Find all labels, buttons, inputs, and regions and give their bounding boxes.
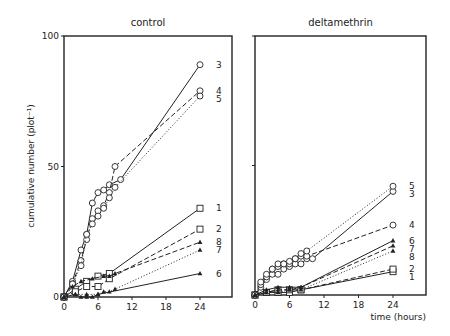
series-end-label: 3: [216, 60, 222, 70]
circle-marker-icon: [197, 62, 203, 68]
series-4: [252, 222, 396, 298]
circle-marker-icon: [269, 266, 275, 272]
y-tick-label: 50: [48, 162, 60, 172]
triangle-marker-icon: [198, 247, 203, 251]
series-end-label: 3: [409, 189, 415, 199]
series-end-label: 6: [216, 269, 222, 279]
series-end-label: 1: [409, 272, 415, 282]
x-axis-label: time (hours): [370, 312, 426, 322]
panel-title: control: [131, 17, 166, 28]
series-end-label: 1: [216, 203, 222, 213]
circle-marker-icon: [106, 195, 112, 201]
x-tick-label: 24: [194, 302, 206, 312]
series-6: [62, 271, 203, 299]
triangle-marker-icon: [391, 248, 396, 252]
x-tick-label: 12: [126, 302, 137, 312]
circle-marker-icon: [78, 263, 84, 269]
y-axis-label: cumulative number (plot⁻¹): [26, 104, 36, 228]
circle-marker-icon: [197, 93, 203, 99]
x-tick-label: 6: [95, 302, 101, 312]
y-tick-label: 0: [53, 292, 59, 302]
series-5: [252, 183, 396, 298]
circle-marker-icon: [281, 261, 287, 267]
square-marker-icon: [95, 284, 101, 290]
series-3: [252, 188, 396, 298]
figure: control0612182405010034512876deltamethri…: [0, 0, 450, 336]
circle-marker-icon: [298, 261, 304, 267]
circle-marker-icon: [390, 183, 396, 189]
square-marker-icon: [197, 205, 203, 211]
circle-marker-icon: [112, 164, 118, 170]
circle-marker-icon: [84, 231, 90, 237]
square-marker-icon: [84, 284, 90, 290]
circle-marker-icon: [89, 221, 95, 227]
panel-title: deltamethrin: [308, 17, 373, 28]
triangle-marker-icon: [198, 271, 203, 275]
circle-marker-icon: [275, 261, 281, 267]
circle-marker-icon: [310, 256, 316, 262]
square-marker-icon: [390, 266, 396, 272]
x-tick-label: 6: [287, 300, 293, 310]
circle-marker-icon: [292, 256, 298, 262]
y-tick-label: 100: [42, 31, 59, 41]
circle-marker-icon: [95, 213, 101, 219]
control-panel: control0612182405010034512876: [42, 17, 232, 312]
triangle-marker-icon: [198, 240, 203, 244]
circle-marker-icon: [112, 184, 118, 190]
x-tick-label: 0: [252, 300, 258, 310]
circle-marker-icon: [304, 248, 310, 254]
series-end-label: 8: [409, 252, 415, 262]
series-5: [61, 93, 203, 300]
x-tick-label: 12: [318, 300, 329, 310]
triangle-marker-icon: [391, 243, 396, 247]
x-tick-label: 24: [387, 300, 399, 310]
square-marker-icon: [197, 226, 203, 232]
circle-marker-icon: [101, 205, 107, 211]
series-end-label: 4: [409, 220, 415, 230]
series-end-label: 5: [216, 94, 222, 104]
circle-marker-icon: [275, 271, 281, 277]
x-tick-label: 18: [160, 302, 172, 312]
circle-marker-icon: [101, 187, 107, 193]
x-tick-label: 18: [353, 300, 365, 310]
x-tick-label: 0: [61, 302, 67, 312]
circle-marker-icon: [89, 200, 95, 206]
circle-marker-icon: [118, 177, 124, 183]
series-end-label: 2: [216, 224, 222, 234]
circle-marker-icon: [298, 251, 304, 257]
circle-marker-icon: [95, 190, 101, 196]
circle-marker-icon: [264, 271, 270, 277]
circle-marker-icon: [287, 258, 293, 264]
triangle-marker-icon: [391, 238, 396, 242]
plot-frame: [255, 36, 426, 295]
series-end-label: 7: [216, 245, 222, 255]
deltamethrin-panel: deltamethrin0612182453467821: [252, 17, 426, 310]
circle-marker-icon: [390, 222, 396, 228]
circle-marker-icon: [258, 279, 264, 285]
